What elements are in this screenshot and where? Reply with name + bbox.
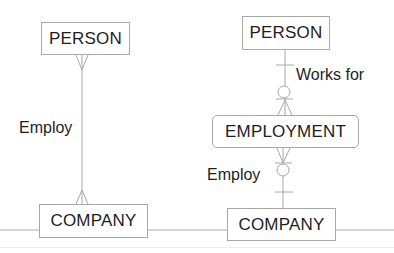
entity-label: PERSON <box>250 23 323 43</box>
zero-circle-icon <box>277 164 289 176</box>
entity-label: COMPANY <box>50 211 136 231</box>
right-employ-label: Employ <box>207 166 260 184</box>
entity-label: PERSON <box>49 29 122 49</box>
employment-entity: EMPLOYMENT <box>212 115 359 148</box>
left-relationship-label: Employ <box>19 119 72 137</box>
zero-circle-icon <box>278 86 290 98</box>
right-company-entity: COMPANY <box>227 208 336 241</box>
left-person-entity: PERSON <box>41 22 130 55</box>
right-person-entity: PERSON <box>242 16 330 50</box>
works-for-label: Works for <box>296 66 364 84</box>
entity-label: COMPANY <box>238 215 324 235</box>
left-company-entity: COMPANY <box>39 204 148 238</box>
entity-label: EMPLOYMENT <box>225 122 346 142</box>
